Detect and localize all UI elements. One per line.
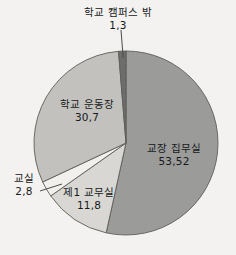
- slice-label-name: 학교 캠퍼스 밖: [62, 6, 174, 18]
- pie-chart-canvas: [0, 0, 236, 255]
- slice-label-first-teachers-room: 제1 교무실 11,8: [48, 186, 130, 212]
- slice-label-name: 교장 집무실: [134, 142, 214, 154]
- slice-label-classroom: 교실 2,8: [2, 172, 46, 198]
- slice-label-value: 2,8: [2, 185, 46, 197]
- slice-label-name: 교실: [2, 172, 46, 184]
- slice-label-value: 11,8: [48, 199, 130, 211]
- slice-label-value: 30,7: [44, 111, 130, 123]
- slice-label-value: 1,3: [62, 19, 174, 31]
- slice-label-name: 학교 운동장: [44, 98, 130, 110]
- slice-label-outside-campus: 학교 캠퍼스 밖 1,3: [62, 6, 174, 32]
- slice-label-name: 제1 교무실: [48, 186, 130, 198]
- slice-label-principal-office: 교장 집무실 53,52: [134, 142, 214, 168]
- slice-label-school-playground: 학교 운동장 30,7: [44, 98, 130, 124]
- slice-label-value: 53,52: [134, 155, 214, 167]
- pie-chart-figure: 학교 캠퍼스 밖 1,3 교장 집무실 53,52 학교 운동장 30,7 제1…: [0, 0, 236, 255]
